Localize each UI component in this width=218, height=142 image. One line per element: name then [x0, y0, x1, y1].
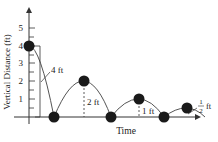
- ball-peak-2ft: [79, 76, 90, 87]
- bouncing-ball-diagram: 5 3 2 1 Vertical Distance (ft) Time 4 ft…: [0, 0, 218, 142]
- label-half-ft-denominator: 2: [199, 107, 203, 115]
- y-axis-label: Vertical Distance (ft): [2, 34, 12, 109]
- ball-peak-1ft: [134, 94, 145, 105]
- x-axis-label: Time: [116, 126, 136, 136]
- y-tick-2: 2: [19, 76, 24, 86]
- y-tick-4: 4: [19, 41, 24, 51]
- ball-bounce-3: [159, 112, 170, 123]
- ball-peak-half-ft: [182, 103, 193, 114]
- y-ticks: [29, 28, 35, 108]
- label-half-ft-numerator: 1: [199, 98, 203, 106]
- ball-start: [24, 41, 35, 52]
- trajectory-curve: [29, 46, 205, 117]
- y-tick-1: 1: [19, 94, 24, 104]
- height-bracket-4ft: [33, 46, 40, 117]
- label-2ft: 2 ft: [87, 97, 100, 107]
- label-4ft: 4 ft: [51, 65, 64, 75]
- ball-bounce-1: [49, 112, 60, 123]
- label-1ft: 1 ft: [142, 106, 155, 116]
- y-tick-3: 3: [19, 58, 24, 68]
- y-tick-5: 5: [19, 23, 24, 33]
- label-half-ft-unit: ft: [206, 101, 212, 111]
- ball-bounce-2: [106, 112, 117, 123]
